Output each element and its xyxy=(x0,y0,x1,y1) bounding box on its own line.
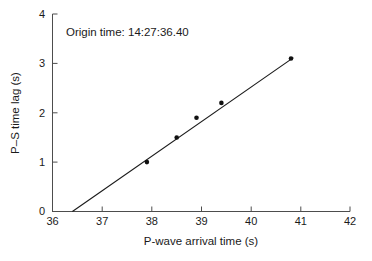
wadati-diagram-figure: 0 1 2 3 4 36 37 38 39 40 41 42 Origin ti… xyxy=(0,0,372,261)
x-tick-label: 36 xyxy=(46,215,58,227)
data-point-markers xyxy=(145,56,294,164)
data-point xyxy=(174,135,179,140)
y-tick-label: 4 xyxy=(39,8,45,20)
x-tick-label: 42 xyxy=(344,215,356,227)
x-tick-label: 37 xyxy=(96,215,108,227)
x-tick-label: 41 xyxy=(295,215,307,227)
data-point xyxy=(194,115,199,120)
y-tick-label: 2 xyxy=(39,107,45,119)
y-tick-label: 0 xyxy=(39,205,45,217)
wadati-fit-line xyxy=(72,58,293,212)
x-axis-title: P-wave arrival time (s) xyxy=(144,235,259,247)
x-axis-tickmarks xyxy=(53,207,351,212)
data-point xyxy=(145,160,150,165)
x-tick-label: 38 xyxy=(146,215,158,227)
x-axis-tick-labels: 36 37 38 39 40 41 42 xyxy=(46,215,356,227)
chart-canvas: 0 1 2 3 4 36 37 38 39 40 41 42 Origin ti… xyxy=(0,0,372,261)
y-axis-title: P–S time lag (s) xyxy=(9,72,21,154)
x-tick-label: 40 xyxy=(245,215,257,227)
y-tick-label: 3 xyxy=(39,57,45,69)
x-tick-label: 39 xyxy=(195,215,207,227)
data-point xyxy=(289,56,294,61)
data-point xyxy=(219,101,224,106)
y-axis-tick-labels: 0 1 2 3 4 xyxy=(39,8,45,218)
origin-time-annotation: Origin time: 14:27:36.40 xyxy=(66,26,189,38)
y-tick-label: 1 xyxy=(39,156,45,168)
y-axis-tickmarks xyxy=(53,14,58,212)
